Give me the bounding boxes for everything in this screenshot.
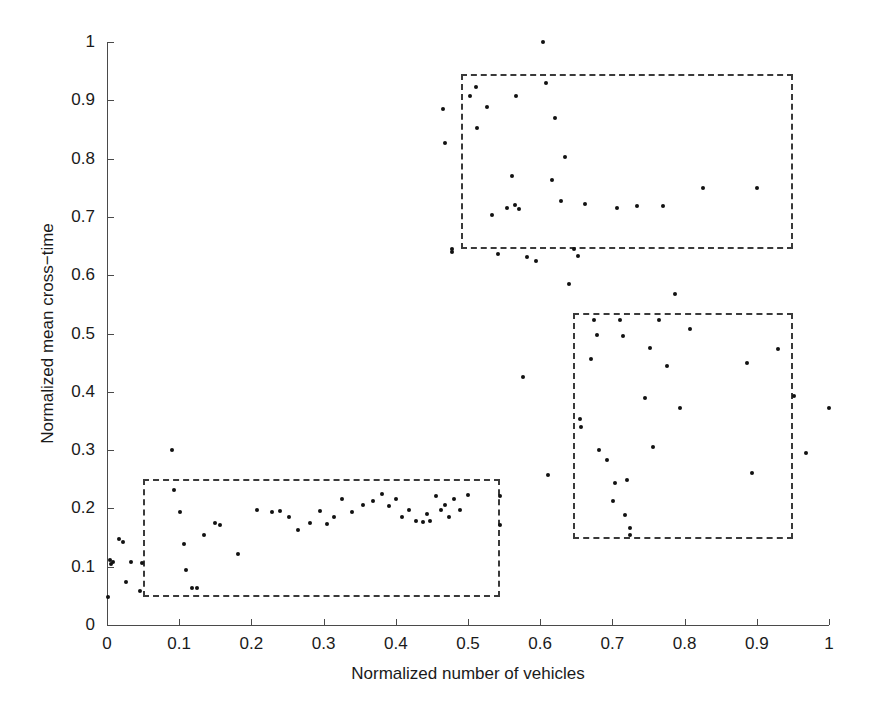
data-point bbox=[218, 523, 222, 527]
data-point bbox=[578, 417, 582, 421]
x-tick-label: 0.3 bbox=[312, 634, 336, 654]
data-point bbox=[380, 492, 384, 496]
data-point bbox=[613, 481, 617, 485]
data-point bbox=[394, 497, 398, 501]
data-point bbox=[434, 494, 438, 498]
data-point bbox=[129, 560, 133, 564]
data-point bbox=[804, 451, 808, 455]
data-point bbox=[439, 508, 443, 512]
y-tick-label: 0 bbox=[86, 615, 95, 635]
data-point bbox=[595, 333, 599, 337]
data-point bbox=[579, 425, 583, 429]
data-point bbox=[550, 178, 554, 182]
data-point bbox=[605, 458, 609, 462]
scatter-plot-figure: 00.10.20.30.40.50.60.70.80.91 00.10.20.3… bbox=[0, 0, 870, 710]
data-point bbox=[332, 515, 336, 519]
data-point bbox=[750, 471, 754, 475]
data-point bbox=[452, 497, 456, 501]
data-point bbox=[458, 508, 462, 512]
x-tick-mark bbox=[468, 619, 469, 625]
data-point bbox=[490, 213, 494, 217]
data-point bbox=[661, 204, 665, 208]
y-tick-mark bbox=[108, 334, 114, 335]
high-cluster-box bbox=[461, 74, 793, 249]
data-point bbox=[544, 81, 548, 85]
x-axis-line bbox=[107, 625, 829, 626]
x-tick-mark bbox=[612, 619, 613, 625]
x-tick-mark bbox=[540, 619, 541, 625]
data-point bbox=[615, 206, 619, 210]
x-tick-label: 0.7 bbox=[601, 634, 625, 654]
data-point bbox=[628, 526, 632, 530]
x-axis-title: Normalized number of vehicles bbox=[107, 664, 829, 684]
y-tick-label: 0.6 bbox=[71, 265, 95, 285]
x-tick-label: 0.6 bbox=[528, 634, 552, 654]
x-tick-label: 0.8 bbox=[673, 634, 697, 654]
data-point bbox=[106, 595, 110, 599]
data-point bbox=[450, 250, 454, 254]
x-tick-mark bbox=[396, 619, 397, 625]
data-point bbox=[318, 509, 322, 513]
data-point bbox=[514, 94, 518, 98]
data-point bbox=[651, 445, 655, 449]
x-tick-label: 1 bbox=[824, 634, 833, 654]
data-point bbox=[517, 207, 521, 211]
data-point bbox=[255, 508, 259, 512]
data-point bbox=[498, 523, 502, 527]
x-tick-label: 0 bbox=[102, 634, 111, 654]
data-point bbox=[745, 361, 749, 365]
y-tick-mark bbox=[108, 100, 114, 101]
x-tick-label: 0.9 bbox=[745, 634, 769, 654]
data-point bbox=[170, 448, 174, 452]
y-tick-label: 0.7 bbox=[71, 207, 95, 227]
data-point bbox=[443, 503, 447, 507]
y-tick-label: 0.2 bbox=[71, 498, 95, 518]
data-point bbox=[325, 522, 329, 526]
data-point bbox=[648, 346, 652, 350]
data-point bbox=[534, 259, 538, 263]
mid-cluster-box bbox=[573, 313, 793, 539]
data-point bbox=[278, 509, 282, 513]
x-tick-mark bbox=[324, 619, 325, 625]
data-point bbox=[553, 116, 557, 120]
y-tick-mark bbox=[108, 567, 114, 568]
data-point bbox=[270, 510, 274, 514]
y-tick-label: 0.3 bbox=[71, 440, 95, 460]
data-point bbox=[563, 155, 567, 159]
data-point bbox=[407, 508, 411, 512]
x-tick-label: 0.4 bbox=[384, 634, 408, 654]
data-point bbox=[572, 247, 576, 251]
data-point bbox=[414, 519, 418, 523]
data-point bbox=[468, 94, 472, 98]
data-point bbox=[387, 504, 391, 508]
data-point bbox=[673, 292, 677, 296]
data-point bbox=[597, 448, 601, 452]
data-point bbox=[236, 552, 240, 556]
data-point bbox=[195, 586, 199, 590]
data-point bbox=[350, 510, 354, 514]
x-tick-mark bbox=[757, 619, 758, 625]
y-axis-title: Normalized mean cross−time bbox=[38, 42, 58, 625]
data-point bbox=[485, 105, 489, 109]
data-point bbox=[466, 493, 470, 497]
data-point bbox=[213, 521, 217, 525]
y-tick-mark bbox=[108, 392, 114, 393]
data-point bbox=[172, 488, 176, 492]
data-point bbox=[628, 533, 632, 537]
data-point bbox=[576, 254, 580, 258]
data-point bbox=[510, 174, 514, 178]
data-point bbox=[496, 252, 500, 256]
data-point bbox=[621, 334, 625, 338]
data-point bbox=[623, 513, 627, 517]
data-point bbox=[643, 396, 647, 400]
data-point bbox=[541, 40, 545, 44]
data-point bbox=[792, 394, 796, 398]
data-point bbox=[611, 499, 615, 503]
data-point bbox=[635, 204, 639, 208]
data-point bbox=[625, 478, 629, 482]
y-tick-label: 0.1 bbox=[71, 557, 95, 577]
data-point bbox=[657, 318, 661, 322]
y-tick-mark bbox=[108, 42, 114, 43]
y-tick-mark bbox=[108, 159, 114, 160]
x-tick-mark bbox=[251, 619, 252, 625]
